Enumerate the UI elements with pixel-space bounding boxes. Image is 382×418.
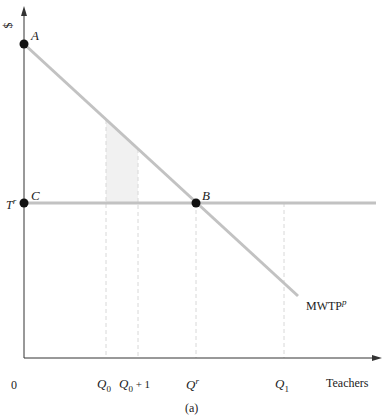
mwtp-sup: p	[342, 297, 347, 307]
qr-sup: r	[195, 376, 199, 386]
q1-main: Q	[275, 376, 284, 391]
figure-caption: (a)	[185, 401, 198, 416]
origin-label: 0	[11, 378, 17, 393]
chart-canvas	[0, 0, 382, 418]
x-tick-qr: Qr	[186, 376, 199, 393]
point-c	[20, 199, 29, 208]
x-tick-q0: Q0	[97, 376, 111, 394]
point-b	[192, 199, 201, 208]
q0-sub: 0	[106, 384, 111, 394]
y-axis-label: $	[1, 23, 16, 29]
point-c-label: C	[31, 188, 40, 204]
q1-sub: 1	[284, 384, 289, 394]
mwtp-main: MWTP	[306, 299, 342, 313]
qr-main: Q	[186, 377, 195, 392]
point-b-label: B	[202, 188, 210, 204]
q0p1-main: Q	[119, 376, 128, 391]
x-axis-arrow-icon	[372, 355, 382, 361]
mwtp-label: MWTPp	[306, 297, 347, 314]
x-tick-q0-plus-1: Q0 + 1	[119, 376, 150, 394]
y-tick-tr: Tr	[6, 196, 16, 213]
x-tick-q1: Q1	[275, 376, 289, 394]
tr-sup: r	[13, 196, 17, 206]
point-a-label: A	[31, 28, 39, 44]
q0-main: Q	[97, 376, 106, 391]
q0p1-suffix: + 1	[133, 378, 150, 390]
y-axis-arrow-icon	[21, 6, 27, 16]
mwtp-line	[24, 44, 298, 296]
tr-main: T	[6, 198, 13, 212]
x-axis-label: Teachers	[326, 376, 368, 391]
point-a	[20, 40, 29, 49]
